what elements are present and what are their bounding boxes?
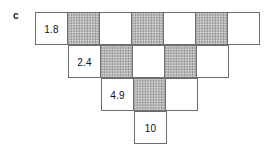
grid-cell-shaded xyxy=(131,12,164,45)
grid-cell-shaded xyxy=(133,78,166,111)
cell-value-label: 1.8 xyxy=(36,23,67,34)
grid-row: 1.8 xyxy=(35,12,259,45)
grid-cell xyxy=(163,12,196,45)
grid-row: 10 xyxy=(134,111,166,144)
grid-cell xyxy=(227,12,260,45)
grid-cell: 10 xyxy=(134,111,167,144)
panel-label-c: c xyxy=(13,11,19,21)
grid-cell xyxy=(99,12,132,45)
cell-value-label: 10 xyxy=(135,122,166,133)
grid-cell xyxy=(132,45,165,78)
grid-cell-shaded xyxy=(100,45,133,78)
grid-cell: 2.4 xyxy=(68,45,101,78)
grid-cell-shaded xyxy=(164,45,197,78)
grid-cell-shaded xyxy=(67,12,100,45)
grid-cell-shaded xyxy=(195,12,228,45)
grid-cell: 1.8 xyxy=(35,12,68,45)
cell-value-label: 4.9 xyxy=(102,89,133,100)
grid-cell: 4.9 xyxy=(101,78,134,111)
grid-row: 4.9 xyxy=(101,78,197,111)
figure-root: c 1.8 2.4 4.9 10 xyxy=(0,0,278,156)
cell-value-label: 2.4 xyxy=(69,56,100,67)
grid-cell xyxy=(165,78,198,111)
grid-row: 2.4 xyxy=(68,45,228,78)
grid-cell xyxy=(196,45,229,78)
